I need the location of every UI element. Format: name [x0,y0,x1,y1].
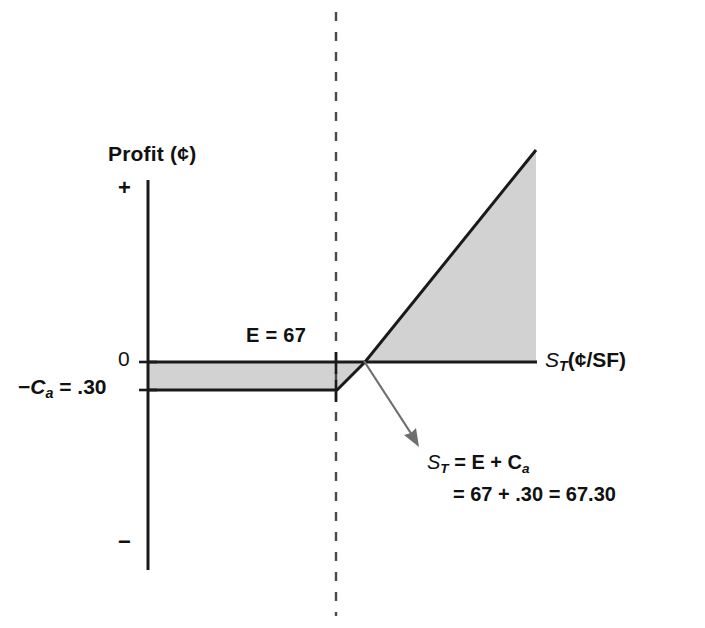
x-axis-symbol-subscript: T [559,358,568,374]
premium-symbol-subscript: a [45,385,53,401]
breakeven-annotation: ST = E + Ca = 67 + .30 = 67.30 [427,447,616,509]
premium-level-label: −Ca = .30 [18,376,107,401]
annotation-arrowhead-icon [404,428,419,447]
y-axis-positive-sign: + [118,176,131,199]
premium-minus-sign: − [18,375,30,398]
y-axis-negative-sign: − [118,530,131,553]
annotation-symbol-S: S [427,451,440,473]
premium-symbol-C: C [30,375,45,398]
figure-root: Profit (¢) + − 0 −Ca = .30 E = 67 ST(¢/S… [0,0,705,628]
annotation-symbol-subscript: T [440,461,448,476]
x-axis-units: (¢/SF) [568,348,626,371]
annotation-rhs-subscript: a [522,461,530,476]
breakeven-annotation-line-1: ST = E + Ca [427,447,616,479]
y-axis-title: Profit (¢) [108,143,196,165]
shaded-premium-band [148,362,365,390]
x-axis-title: ST(¢/SF) [545,349,626,374]
y-tick-label-zero: 0 [118,348,130,370]
annotation-leader-arrow [364,361,414,438]
premium-value: = .30 [59,375,106,398]
annotation-equation-rhs: = E + C [454,451,522,473]
breakeven-annotation-line-2: = 67 + .30 = 67.30 [427,479,616,509]
x-axis-symbol-S: S [545,348,559,371]
chart-canvas [0,0,705,628]
strike-price-label: E = 67 [246,325,306,346]
